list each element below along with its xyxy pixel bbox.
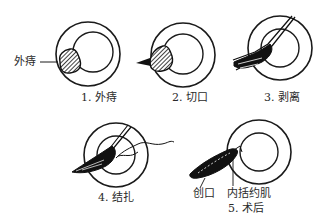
anal-outer-ring (248, 16, 312, 80)
diagram-canvas (0, 0, 329, 224)
panel-4-ligation (72, 123, 174, 187)
dissected-tissue (234, 44, 272, 68)
caption-step-3: 3. 剥离 (264, 92, 300, 104)
callout-external-hemorrhoid: 外痔 (14, 56, 36, 68)
callout-wound: 创口 (193, 188, 215, 200)
anal-outer-ring (84, 123, 148, 187)
caption-step-2: 2. 切口 (172, 92, 208, 104)
panel-3-dissection (233, 16, 312, 80)
ligated-hemorrhoid (72, 146, 115, 173)
caption-step-5: 5. 术后 (228, 203, 264, 215)
caption-step-4: 4. 结扎 (98, 192, 134, 204)
wound (190, 149, 238, 178)
hemorrhoid-mass (150, 46, 173, 71)
panel-2-incision (136, 23, 215, 87)
panel-1-external-hemorrhoid (40, 22, 120, 86)
incision-tip (136, 58, 151, 66)
panel-5-postoperative (190, 120, 291, 188)
caption-step-1: 1. 外痔 (81, 92, 117, 104)
anal-inner-ring (240, 133, 278, 171)
callout-internal-sphincter: 内括约肌 (227, 188, 271, 200)
hemorrhoid-mass (60, 49, 81, 73)
